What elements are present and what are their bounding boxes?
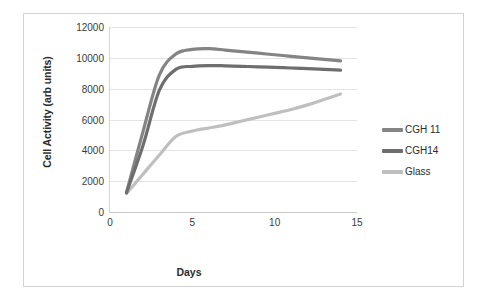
y-tick-label: 10000 [76,52,104,63]
x-tick-label: 0 [107,217,113,228]
y-tick-label: 2000 [82,176,104,187]
legend-item[interactable]: CGH14 [382,140,462,161]
legend-label: CGH 11 [405,124,440,135]
series-line [126,66,340,193]
y-tick-label: 12000 [76,22,104,33]
y-tick-label: 4000 [82,145,104,156]
chart-figure-frame: Cell Activity (arb units) Days 020004000… [23,13,464,287]
legend-swatch-icon [382,149,403,153]
legend-item[interactable]: Glass [382,161,462,182]
x-tick-label: 10 [269,217,280,228]
legend-label: CGH14 [405,145,438,156]
y-tick-label: 6000 [82,114,104,125]
y-axis-title: Cell Activity (arb units) [41,27,53,197]
series-lines [110,27,357,212]
series-line [126,94,340,193]
legend-label: Glass [405,166,431,177]
legend-item[interactable]: CGH 11 [382,119,462,140]
x-tick-label: 15 [351,217,362,228]
y-tick-label: 8000 [82,83,104,94]
x-axis-title: Days [24,266,354,278]
x-tick-label: 5 [190,217,196,228]
legend-swatch-icon [382,170,403,174]
chart-legend: CGH 11CGH14Glass [382,119,462,182]
plot-area: 020004000600080001000012000 051015 [109,27,357,213]
legend-swatch-icon [382,128,403,132]
y-tick-label: 0 [98,207,104,218]
